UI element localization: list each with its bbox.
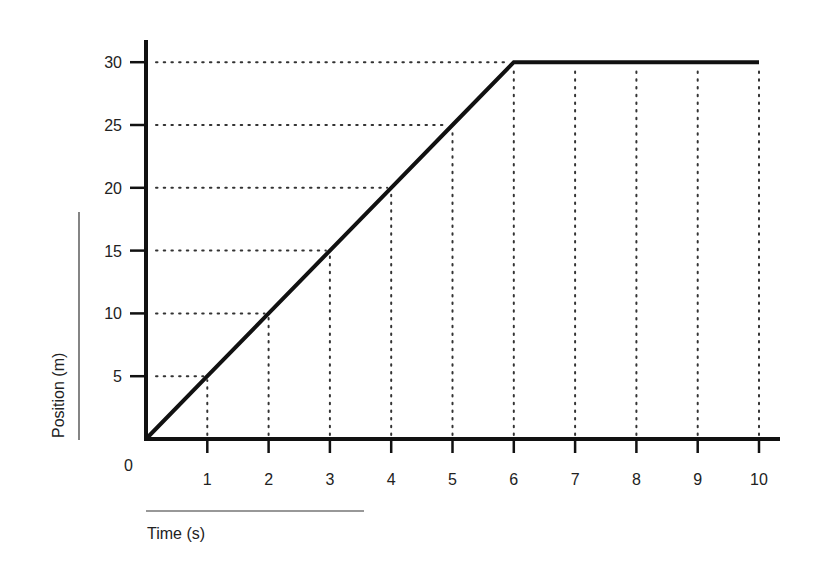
- x-tick-label: 5: [448, 471, 457, 488]
- x-tick-label: 4: [387, 471, 396, 488]
- x-tick-label: 1: [203, 471, 212, 488]
- x-tick-label: 8: [632, 471, 641, 488]
- y-tick-label: 25: [104, 117, 122, 134]
- x-tick-label: 2: [264, 471, 273, 488]
- axes: [144, 40, 780, 439]
- y-axis-title: Position (m): [50, 353, 67, 438]
- x-tick-label: 9: [693, 471, 702, 488]
- y-tick-label: 30: [104, 54, 122, 71]
- x-tick-label: 10: [750, 471, 768, 488]
- ticks: [130, 62, 759, 453]
- origin-label: 0: [124, 457, 133, 474]
- y-tick-label: 20: [104, 180, 122, 197]
- tick-labels: 1234567891051015202530: [104, 54, 768, 488]
- x-tick-label: 7: [571, 471, 580, 488]
- y-tick-label: 5: [113, 368, 122, 385]
- y-tick-label: 15: [104, 243, 122, 260]
- y-tick-label: 10: [104, 305, 122, 322]
- x-tick-label: 3: [325, 471, 334, 488]
- position-time-chart: 1234567891051015202530 0 Time (s) Positi…: [0, 0, 819, 566]
- x-tick-label: 6: [509, 471, 518, 488]
- x-axis-title: Time (s): [147, 525, 205, 542]
